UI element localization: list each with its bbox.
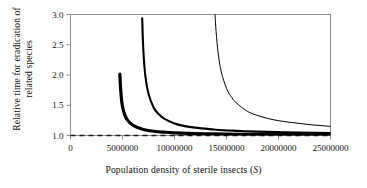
x-tick-label: 10000000 xyxy=(157,143,194,153)
chart-figure: 1.01.52.02.53.00500000010000000150000002… xyxy=(0,0,367,188)
y-axis-label: Relative time for eradication of related… xyxy=(0,4,88,134)
y-axis-label-line1: Relative time for eradication of xyxy=(11,7,23,131)
curve-3-thin xyxy=(215,13,331,126)
x-tick-label: 0 xyxy=(68,143,73,153)
curve-2-medium xyxy=(142,18,330,133)
x-axis-label: Population density of sterile insects (S… xyxy=(0,164,367,175)
x-tick-label: 5000000 xyxy=(107,143,139,153)
plot-frame xyxy=(71,15,331,136)
y-axis-label-line2: related species xyxy=(23,7,35,131)
x-tick-label: 15000000 xyxy=(209,143,246,153)
x-tick-label: 20000000 xyxy=(261,143,298,153)
x-tick-label: 25000000 xyxy=(313,143,350,153)
x-axis-label-prefix: Population density of sterile insects ( xyxy=(105,164,253,175)
x-axis-label-suffix: ) xyxy=(258,164,261,175)
